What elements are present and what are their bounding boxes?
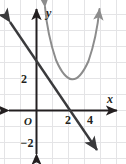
y-tick-label-neg2: −2 <box>21 136 34 150</box>
coordinate-graph-figure: 2 −2 2 4 O y x <box>0 0 126 164</box>
x-tick-label-4: 4 <box>87 113 93 127</box>
origin-label: O <box>24 115 32 127</box>
y-tick-label-2: 2 <box>21 72 27 86</box>
y-axis-label: y <box>44 6 52 20</box>
figure-background <box>0 0 126 164</box>
x-axis-label: x <box>106 92 113 106</box>
graph-canvas: 2 −2 2 4 O y x <box>0 0 126 164</box>
x-tick-label-2: 2 <box>65 113 71 127</box>
